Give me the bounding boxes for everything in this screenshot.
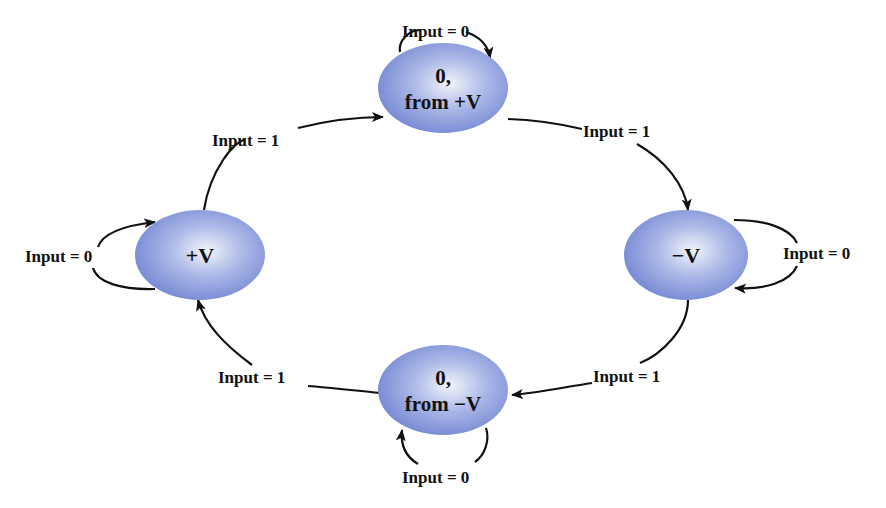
state-node-zero-from-neg: 0, from −V bbox=[378, 345, 508, 435]
state-node-zero-from-pos: 0, from +V bbox=[378, 43, 508, 133]
node-label-line1: 0, bbox=[435, 366, 451, 390]
edge-path bbox=[640, 300, 688, 363]
edge-path bbox=[508, 119, 582, 129]
edge-label: Input = 1 bbox=[212, 131, 279, 150]
edge-path-arrow bbox=[298, 117, 383, 128]
edge-zero-from-pos-to-neg: Input = 1 bbox=[508, 119, 688, 210]
diagram-svg: Input = 1 Input = 1 Input = 1 Input = 1 … bbox=[0, 0, 886, 508]
edge-label: Input = 1 bbox=[583, 122, 650, 141]
self-loop-neg-v: Input = 0 bbox=[734, 220, 850, 288]
edge-path bbox=[308, 386, 380, 393]
state-node-pos-v: +V bbox=[135, 210, 265, 300]
node-label-line2: from −V bbox=[405, 392, 481, 416]
edge-label: Input = 0 bbox=[402, 22, 469, 41]
edge-zero-from-neg-to-pos: Input = 1 bbox=[198, 300, 380, 393]
state-node-neg-v: −V bbox=[624, 210, 748, 300]
edge-label: Input = 0 bbox=[402, 468, 469, 487]
node-label-line2: from +V bbox=[405, 90, 481, 114]
state-diagram: Input = 1 Input = 1 Input = 1 Input = 1 … bbox=[0, 0, 886, 508]
loop-path bbox=[475, 428, 487, 462]
node-ellipse bbox=[378, 345, 508, 435]
edge-label: Input = 0 bbox=[783, 244, 850, 263]
edge-path bbox=[204, 140, 245, 210]
edge-label: Input = 1 bbox=[593, 367, 660, 386]
edge-label: Input = 1 bbox=[218, 368, 285, 387]
edge-path-arrow bbox=[512, 383, 592, 395]
edge-pos-to-zero-from-pos: Input = 1 bbox=[204, 117, 383, 210]
node-label: +V bbox=[186, 243, 215, 268]
self-loop-zero-from-neg: Input = 0 bbox=[402, 428, 488, 487]
node-ellipse bbox=[378, 43, 508, 133]
node-label-line1: 0, bbox=[435, 64, 451, 88]
edge-label: Input = 0 bbox=[25, 247, 92, 266]
edge-neg-to-zero-from-neg: Input = 1 bbox=[512, 300, 688, 395]
edge-path-arrow bbox=[637, 144, 688, 210]
node-label: −V bbox=[672, 243, 701, 268]
loop-path-arrow bbox=[402, 430, 418, 464]
edge-path-arrow bbox=[198, 300, 252, 365]
